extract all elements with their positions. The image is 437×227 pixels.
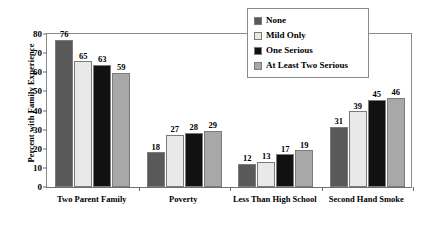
bar xyxy=(74,61,92,187)
bar-value-label: 39 xyxy=(354,102,363,111)
bar xyxy=(257,162,275,187)
bar xyxy=(295,150,313,187)
bar-value-label: 59 xyxy=(117,63,126,72)
bar-slot: 27 xyxy=(166,34,184,187)
bar xyxy=(204,131,222,187)
bar-slot: 59 xyxy=(112,34,130,187)
bar-value-label: 65 xyxy=(79,52,88,61)
bar-value-label: 27 xyxy=(171,125,180,134)
bar-group: 76656359 xyxy=(47,34,139,187)
legend-label-none: None xyxy=(266,16,286,25)
bar-slot: 28 xyxy=(185,34,203,187)
x-tick-mark xyxy=(230,187,231,191)
bar-group: 18272829 xyxy=(139,34,231,187)
legend-label-at-least-two-serious: At Least Two Serious xyxy=(266,61,348,70)
legend-swatch-at-least-two-serious xyxy=(254,62,262,70)
bar-value-label: 18 xyxy=(152,143,161,152)
x-tick-mark xyxy=(139,187,140,191)
bar xyxy=(112,73,130,187)
bar-value-label: 13 xyxy=(262,152,271,161)
bar-value-label: 76 xyxy=(60,30,69,39)
bar xyxy=(93,65,111,187)
bar xyxy=(166,135,184,187)
bar-slot: 63 xyxy=(93,34,111,187)
bar-value-label: 28 xyxy=(190,123,199,132)
legend-item-one-serious: One Serious xyxy=(254,43,363,58)
legend-item-at-least-two-serious: At Least Two Serious xyxy=(254,58,363,73)
bar xyxy=(238,164,256,187)
bar-value-label: 63 xyxy=(98,55,107,64)
bar xyxy=(330,127,348,187)
bar xyxy=(147,152,165,187)
bar xyxy=(349,111,367,187)
bar-chart: Percent with Family Experience 010203040… xyxy=(0,0,437,227)
bar-slot: 29 xyxy=(204,34,222,187)
bar xyxy=(368,100,386,187)
bar xyxy=(276,154,294,187)
x-axis-label: Poverty xyxy=(169,194,197,204)
legend-swatch-mild-only xyxy=(254,32,262,40)
bar-value-label: 46 xyxy=(392,88,401,97)
bar xyxy=(55,40,73,187)
x-axis-label: Second Hand Smoke xyxy=(329,194,404,204)
bar-value-label: 12 xyxy=(243,154,252,163)
bar-slot: 76 xyxy=(55,34,73,187)
x-axis-label: Less Than High School xyxy=(233,194,317,204)
bar-slot: 18 xyxy=(147,34,165,187)
legend-label-mild-only: Mild Only xyxy=(266,31,306,40)
legend-item-none: None xyxy=(254,13,363,28)
bar xyxy=(387,98,405,187)
legend-label-one-serious: One Serious xyxy=(266,46,313,55)
bar-value-label: 29 xyxy=(209,121,218,130)
legend-item-mild-only: Mild Only xyxy=(254,28,363,43)
bar-slot: 46 xyxy=(387,34,405,187)
x-axis-label: Two Parent Family xyxy=(57,194,127,204)
bar-value-label: 19 xyxy=(300,141,309,150)
bar-value-label: 17 xyxy=(281,145,290,154)
bar-slot: 65 xyxy=(74,34,92,187)
bar-slot: 45 xyxy=(368,34,386,187)
bar-value-label: 45 xyxy=(373,90,382,99)
legend-swatch-one-serious xyxy=(254,47,262,55)
bar-value-label: 31 xyxy=(335,117,344,126)
legend-swatch-none xyxy=(254,17,262,25)
x-tick-mark xyxy=(322,187,323,191)
bar xyxy=(185,133,203,187)
x-tick-mark xyxy=(413,187,414,191)
legend: None Mild Only One Serious At Least Two … xyxy=(247,8,369,78)
